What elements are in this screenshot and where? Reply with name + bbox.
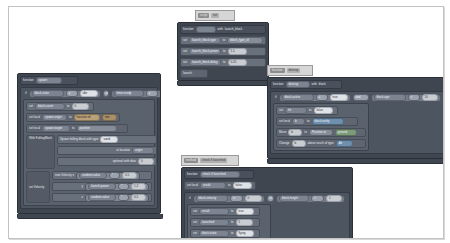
velocity-operand-right[interactable]: 0.5 [122, 172, 137, 179]
condition-left-operator[interactable]: = [66, 90, 78, 97]
condition-left-value[interactable]: 0 [245, 195, 262, 202]
set-row[interactable]: set launch_block.delay to 0.25 [180, 58, 266, 67]
cluster-check-launched[interactable]: method check if launched function check … [181, 155, 355, 239]
velocity-row-z[interactable]: z random.value * 0.5 [52, 193, 152, 202]
condition-left-operator[interactable]: != [230, 195, 243, 202]
variable-field[interactable]: spawn.target [42, 125, 70, 132]
velocity-expression-y[interactable]: launch.power * 1.2 [85, 183, 149, 191]
set-local-row[interactable]: set local b to block.entity [276, 117, 358, 126]
spawn-optional-row[interactable]: optional with data 0 [57, 157, 157, 166]
velocity-operand-left[interactable]: launch.power [88, 183, 116, 190]
function-arg-field[interactable]: me [102, 114, 117, 121]
spawn-type-field[interactable]: sand [100, 136, 118, 143]
cluster-tab-launch-block[interactable]: script init [195, 10, 235, 21]
move-value-field[interactable]: ground [335, 129, 357, 136]
function-header-destroy[interactable]: function destroy with block [270, 80, 342, 89]
spawn-statement-row[interactable]: Spawn falling block with type sand [57, 135, 157, 144]
function-block-check-launched[interactable]: function check if launched set local res… [181, 167, 353, 239]
condition-join-operator[interactable]: and [103, 90, 109, 97]
function-block-launch[interactable]: function with launch_block set launch_bl… [177, 22, 269, 81]
if-header[interactable]: if block.velocity != 0 or block.height >… [187, 195, 347, 202]
if-header[interactable]: if block.active = true and block.age > 1… [273, 94, 443, 101]
if-header[interactable]: if block.state = idle and timer.ready = … [23, 90, 155, 97]
velocity-operator[interactable]: * [118, 194, 129, 201]
condition-left-operator[interactable]: = [316, 94, 328, 101]
set-velocity-label[interactable]: set Velocity [26, 171, 50, 203]
number-field[interactable]: 0.25 [228, 59, 247, 66]
set-local-row[interactable]: set local spawn.origin to function of me [26, 113, 120, 122]
variable-field[interactable]: block.count [35, 103, 65, 110]
variable-field[interactable]: block.state [199, 230, 229, 237]
move-function-field[interactable]: Position at [309, 129, 333, 136]
function-header-spawn[interactable]: function spawn [20, 76, 78, 85]
condition-left[interactable]: block.velocity != 0 [193, 195, 265, 203]
blockly-canvas[interactable]: script init function with launch_block s… [8, 6, 444, 239]
cluster-spawn-falling[interactable]: function spawn if block.state = idle and… [17, 73, 163, 219]
cluster-tab-destroy[interactable]: function destroy [267, 65, 313, 76]
value-field[interactable]: flying [236, 230, 254, 237]
number-field[interactable]: 1.5 [228, 48, 247, 55]
value-field[interactable]: false [314, 107, 333, 114]
value-field[interactable]: block_type_id [227, 37, 263, 44]
variable-field[interactable]: launch_block.type [189, 37, 221, 44]
number-field[interactable]: 1 [236, 219, 253, 226]
function-header-launch[interactable]: function with launch_block [180, 25, 266, 34]
variable-field[interactable]: b [292, 118, 305, 125]
velocity-operand-left[interactable]: random.value [88, 194, 116, 201]
function-name-field[interactable] [196, 26, 216, 33]
condition-right[interactable]: block.height > 1 [276, 195, 345, 203]
condition-left-value[interactable]: true [330, 94, 348, 101]
set-row[interactable]: set hit to false [276, 106, 338, 115]
spawn-location-row[interactable]: at location origin [57, 146, 157, 155]
change-value-field[interactable]: Air [336, 140, 353, 147]
variable-field[interactable]: spawn.origin [42, 114, 67, 121]
condition-right-operator[interactable]: > [408, 94, 420, 101]
set-row[interactable]: set result to true [190, 207, 260, 216]
velocity-operator[interactable]: * [109, 172, 120, 179]
variable-field[interactable]: result [200, 182, 226, 189]
variable-field[interactable]: result [199, 208, 229, 215]
set-velocity-group[interactable]: set Velocity new Velocity x random.value… [26, 171, 152, 203]
value-field[interactable]: position [77, 125, 117, 132]
condition-right-operator[interactable]: = [146, 90, 158, 97]
spawn-data-field[interactable]: 0 [138, 158, 154, 165]
condition-right-variable[interactable]: block.age [374, 94, 406, 101]
condition-left[interactable]: block.active = true [279, 94, 351, 102]
function-header-check-launched[interactable]: function check if launched [184, 170, 254, 179]
condition-join-operator[interactable]: and [353, 94, 369, 101]
condition-left-variable[interactable]: block.active [282, 94, 314, 101]
set-row[interactable]: set launched to 1 [190, 218, 260, 227]
velocity-expression-x[interactable]: random.value * 0.5 [76, 172, 140, 180]
move-target-field[interactable]: b [288, 129, 302, 136]
function-block-spawn[interactable]: function spawn if block.state = idle and… [17, 73, 161, 214]
value-field[interactable]: true [236, 208, 254, 215]
change-row[interactable]: Change b above touch of type Air [276, 139, 366, 148]
condition-right-value[interactable]: 1 [326, 195, 342, 202]
condition-right-variable[interactable]: block.height [279, 195, 309, 202]
number-field[interactable]: 0 [72, 103, 89, 110]
condition-right-operator[interactable]: > [311, 195, 324, 202]
velocity-row-y[interactable]: y launch.power * 1.2 [52, 182, 152, 191]
velocity-row-x[interactable]: new Velocity x random.value * 0.5 [52, 171, 152, 180]
with-falling-block-label[interactable]: With FallingBlock [26, 135, 55, 169]
if-block-spawn[interactable]: if block.state = idle and timer.ready = … [20, 87, 158, 209]
condition-right-variable[interactable]: timer.ready [114, 90, 144, 97]
condition-right-value[interactable]: 10 [422, 94, 438, 101]
function-block-destroy[interactable]: function destroy with block if block.act… [267, 77, 444, 159]
condition-right[interactable]: timer.ready = true [111, 90, 162, 98]
if-block-check-launched[interactable]: if block.velocity != 0 or block.height >… [184, 192, 350, 239]
cluster-destroy[interactable]: function destroy function destroy with b… [267, 65, 444, 164]
condition-left-variable[interactable]: block.velocity [196, 195, 228, 202]
move-row[interactable]: Move b to Position at ground [276, 128, 366, 137]
value-field[interactable]: block.entity [312, 118, 344, 125]
if-block-destroy[interactable]: if block.active = true and block.age > 1… [270, 91, 444, 154]
condition-left-variable[interactable]: block.state [32, 90, 64, 97]
condition-right-value[interactable]: true [160, 90, 162, 97]
condition-right[interactable]: block.age > 10 [371, 94, 441, 102]
change-target-field[interactable]: b [292, 140, 306, 147]
set-local-row[interactable]: set local spawn.target to position [26, 124, 128, 133]
variable-field[interactable]: launch_block.power [189, 48, 221, 55]
set-row[interactable]: set launch_block.power to 1.5 [180, 47, 266, 56]
variable-field[interactable]: launch_block.delay [189, 59, 221, 66]
variable-field[interactable]: hit [285, 107, 307, 114]
